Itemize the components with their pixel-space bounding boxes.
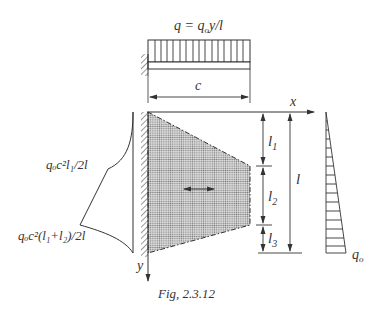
figure-caption: Fig, 2.3.12 xyxy=(157,286,216,301)
wall-support-top xyxy=(141,54,148,76)
tapered-plate xyxy=(148,112,250,253)
label-l3: l3 xyxy=(268,230,277,249)
triangular-load xyxy=(326,112,346,253)
moment-label-1: qₒc²l₁/2l xyxy=(46,157,88,172)
load-formula: q = qoy/l xyxy=(174,18,223,35)
top-beam: q = qoy/l xyxy=(141,18,250,76)
label-q0: qo xyxy=(352,247,364,264)
y-axis-label: y xyxy=(135,258,144,273)
moment-diagram xyxy=(80,112,133,253)
svg-text:c: c xyxy=(195,78,202,93)
load-arrows xyxy=(155,40,243,62)
moment-label-2: qₒc²(l₁+l₂)/2l xyxy=(18,228,86,243)
label-l: l xyxy=(296,171,300,187)
x-axis-label: x xyxy=(289,94,297,109)
figure-diagram: q = qoy/l c x y xyxy=(0,0,382,313)
label-l2: l2 xyxy=(268,188,277,207)
dimension-c: c xyxy=(148,69,250,103)
label-l1: l1 xyxy=(268,133,277,152)
wall-support-plate xyxy=(141,112,148,257)
beam xyxy=(148,62,250,69)
